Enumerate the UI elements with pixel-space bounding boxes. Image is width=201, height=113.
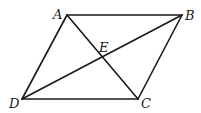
label-e: E bbox=[98, 40, 109, 55]
label-d: D bbox=[8, 96, 20, 111]
side-bc bbox=[138, 15, 182, 99]
label-a: A bbox=[52, 7, 62, 22]
parallelogram-diagram: A B C D E bbox=[0, 0, 201, 113]
label-b: B bbox=[184, 8, 195, 23]
diagonal-bd bbox=[22, 15, 182, 99]
label-c: C bbox=[141, 96, 151, 111]
